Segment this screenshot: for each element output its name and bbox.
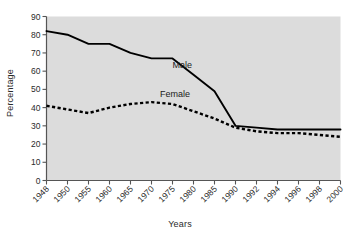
y-tick-label: 60 — [31, 66, 41, 76]
y-tick-label: 10 — [31, 157, 41, 167]
plot-background — [47, 17, 341, 181]
x-tick-label: 1965 — [114, 184, 135, 205]
x-tick-label: 1990 — [219, 184, 240, 205]
x-tick-label: 1975 — [156, 184, 177, 205]
y-tick-label: 0 — [36, 176, 41, 186]
x-tick-label: 1950 — [51, 184, 72, 205]
x-tick-label: 1948 — [30, 184, 51, 205]
x-tick-label: 1985 — [198, 184, 219, 205]
x-tick-label: 1992 — [240, 184, 261, 205]
chart-container: Percentage Years 0102030405060708090 194… — [0, 0, 360, 238]
x-tick-label: 1998 — [303, 184, 324, 205]
series-annotation-male: Male — [173, 60, 193, 70]
y-tick-label: 30 — [31, 121, 41, 131]
series-annotation-female: Female — [160, 89, 190, 99]
y-tick-label: 80 — [31, 30, 41, 40]
x-tick-label: 2000 — [324, 184, 345, 205]
y-axis-ticks: 0102030405060708090 — [31, 12, 46, 186]
x-axis-ticks: 1948195019551960196519701975198019851990… — [30, 181, 345, 205]
line-chart-plot: 0102030405060708090 19481950195519601965… — [0, 0, 360, 238]
x-tick-label: 1994 — [261, 184, 282, 205]
y-tick-label: 50 — [31, 84, 41, 94]
x-tick-label: 1980 — [177, 184, 198, 205]
y-tick-label: 90 — [31, 12, 41, 22]
x-tick-label: 1970 — [135, 184, 156, 205]
x-tick-label: 1960 — [93, 184, 114, 205]
y-tick-label: 40 — [31, 103, 41, 113]
y-tick-label: 70 — [31, 48, 41, 58]
x-tick-label: 1955 — [72, 184, 93, 205]
x-tick-label: 1996 — [282, 184, 303, 205]
y-tick-label: 20 — [31, 139, 41, 149]
